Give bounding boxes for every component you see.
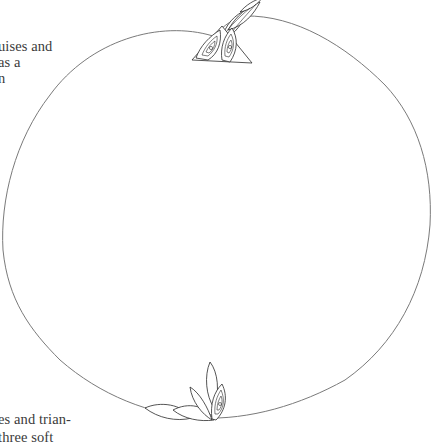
document-page: uises and as a n es and trian- three sof… <box>0 0 433 442</box>
fruit-outline <box>3 16 431 418</box>
blossom-ornament <box>145 362 225 421</box>
stem-ornament <box>192 0 262 63</box>
fruit-illustration <box>0 0 433 442</box>
